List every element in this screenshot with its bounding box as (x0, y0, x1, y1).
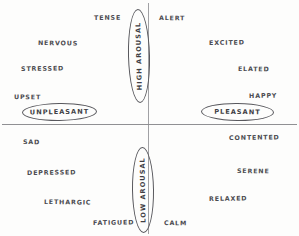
word-serene: SERENE (237, 167, 270, 174)
pole-pleasant-label: PLEASANT (214, 108, 261, 117)
valence-axis-line (2, 124, 297, 125)
pole-unpleasant: UNPLEASANT (22, 102, 97, 121)
word-sad: SAD (23, 138, 40, 145)
word-relaxed: RELAXED (209, 194, 247, 202)
word-contented: CONTENTED (229, 133, 280, 141)
word-elated: ELATED (238, 65, 270, 72)
pole-unpleasant-label: UNPLEASANT (30, 108, 89, 117)
pole-low-arousal-label: LOW AROUSAL (139, 157, 148, 222)
word-upset: UPSET (14, 93, 41, 100)
word-nervous: NERVOUS (38, 39, 78, 46)
word-lethargic: LETHARGIC (44, 198, 91, 206)
word-excited: EXCITED (209, 39, 245, 46)
word-tense: TENSE (94, 14, 121, 21)
pole-pleasant: PLEASANT (201, 103, 274, 122)
word-calm: CALM (164, 219, 187, 226)
pole-low-arousal: LOW AROUSAL (131, 147, 154, 233)
word-fatigued: FATIGUED (93, 218, 134, 226)
word-stressed: STRESSED (21, 64, 64, 72)
word-depressed: DEPRESSED (27, 168, 76, 176)
word-happy: HAPPY (249, 92, 277, 99)
pole-high-arousal-label: HIGH AROUSAL (134, 22, 144, 91)
circumplex-affect-diagram: TENSE NERVOUS STRESSED UPSET ALERT EXCIT… (0, 0, 299, 236)
word-alert: ALERT (159, 14, 185, 21)
